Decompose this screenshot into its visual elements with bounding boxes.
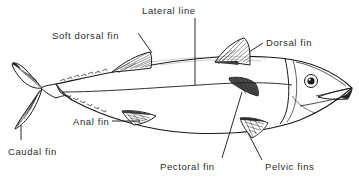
label-anal-fin: Anal fin bbox=[73, 117, 110, 127]
pelvic-fins bbox=[240, 118, 268, 138]
label-caudal-fin: Caudal fin bbox=[8, 147, 57, 157]
leader-dorsal-fin bbox=[249, 43, 263, 52]
eye-pupil bbox=[307, 77, 314, 84]
label-soft-dorsal-fin: Soft dorsal fin bbox=[52, 31, 119, 41]
fish-anatomy-diagram: Lateral line Soft dorsal fin Dorsal fin … bbox=[0, 0, 359, 178]
dorsal-fin bbox=[215, 38, 250, 65]
label-dorsal-fin: Dorsal fin bbox=[266, 38, 312, 48]
eye-highlight bbox=[309, 79, 311, 81]
label-pelvic-fins: Pelvic fins bbox=[265, 162, 314, 172]
leader-pelvic-fins bbox=[248, 133, 262, 160]
label-lateral-line: Lateral line bbox=[142, 6, 196, 16]
caudal-fin-group bbox=[12, 62, 72, 129]
leader-soft-dorsal-fin bbox=[138, 33, 152, 53]
label-pectoral-fin: Pectoral fin bbox=[160, 162, 215, 172]
